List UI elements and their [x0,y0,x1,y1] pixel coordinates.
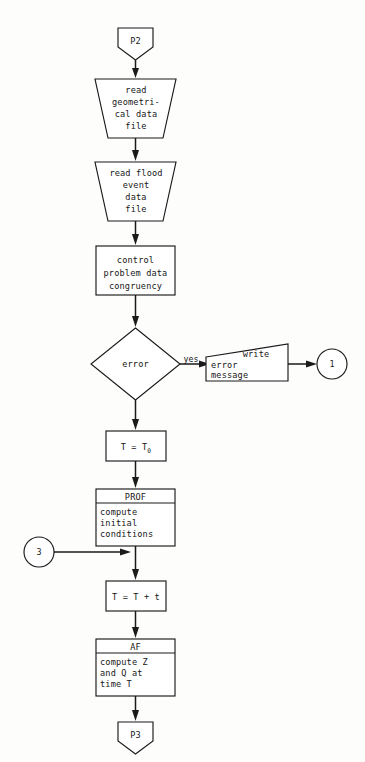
node-label-line1: read [125,85,146,95]
flowchart-canvas: P2 read geometri- cal data file read flo… [0,0,365,762]
node-label-line2: and Q at [100,668,143,678]
node-label-line3: conditions [100,529,153,539]
edge-connector-3-to-increment-t [54,549,131,556]
node-label-line1: compute Z [100,657,148,667]
node-label-p3: P3 [130,730,141,740]
node-label-error: error [122,359,149,369]
flowchart-svg: P2 read geometri- cal data file read flo… [0,0,365,762]
edge-af-to-end-p3 [132,696,139,721]
node-label-line1: read flood [109,168,162,178]
node-af-subroutine[interactable]: AF compute Z and Q at time T [96,639,175,696]
edge-p2-to-read-geometrical [132,60,139,78]
node-control-congruency[interactable]: control problem data congruency [96,246,175,295]
node-error-decision[interactable]: error [91,328,180,400]
node-label-write: write [243,349,270,359]
node-header-prof: PROF [125,492,146,502]
edge-read-flood-to-control [132,221,139,245]
node-label-connector-3: 3 [36,547,41,557]
node-end-p3[interactable]: P3 [118,722,153,754]
node-prof-subroutine[interactable]: PROF compute initial conditions [96,489,175,546]
node-label-line3: data [125,192,146,202]
node-label-line2: message [211,370,248,380]
node-label-line1: compute [100,507,137,517]
edge-increment-t-to-af [132,611,139,638]
node-increment-t[interactable]: T = T + t [106,581,166,611]
edge-label-yes: yes [183,354,198,364]
node-label-t-plus-t: T = T + t [112,592,160,602]
edge-prof-to-increment-t [132,546,139,580]
node-label-line1: control [117,255,154,265]
node-label-line2: event [123,180,150,190]
edge-control-to-error-decision [132,295,139,327]
node-label-line1: error [211,360,238,370]
node-label-line4: file [125,121,146,131]
node-label-line2: problem data [104,268,168,278]
node-set-t-t0[interactable]: T = T0 [106,431,166,461]
node-header-af: AF [130,642,141,652]
node-start-p2[interactable]: P2 [118,28,153,60]
node-connector-1[interactable]: 1 [317,349,347,379]
node-label-line2: initial [100,518,137,528]
node-label-line3: congruency [109,281,162,291]
node-label-line2: geometri- [112,97,160,107]
node-label-line4: file [125,204,146,214]
node-label-p2: P2 [130,36,141,46]
node-read-geometrical[interactable]: read geometri- cal data file [95,79,176,138]
node-label-line3: time T [100,679,132,689]
node-label-line3: cal data [115,109,158,119]
node-connector-3[interactable]: 3 [24,537,54,567]
node-label-connector-1: 1 [329,359,334,369]
edge-read-geometrical-to-read-flood [132,138,139,161]
edge-error-no-to-set-t-t0 [132,400,139,430]
edge-write-error-to-connector-1 [288,361,317,368]
node-write-error-message[interactable]: write error message [206,344,288,381]
node-read-flood[interactable]: read flood event data file [95,162,176,221]
edge-set-t-t0-to-prof [132,461,139,488]
